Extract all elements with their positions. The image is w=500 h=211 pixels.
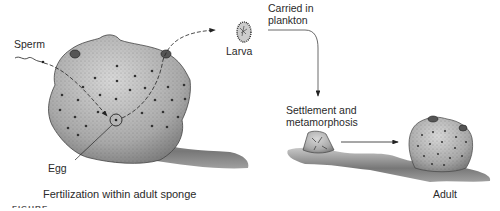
diagram-artwork: [0, 0, 500, 211]
label-adult: Adult: [433, 188, 457, 200]
plankton-arrow: [268, 30, 318, 96]
label-plankton: plankton: [268, 14, 308, 26]
label-settlement: Settlement and: [286, 104, 357, 116]
sperm-tail: [15, 57, 42, 62]
adult-sponge-small: [409, 116, 473, 172]
osculum-right: [161, 50, 171, 58]
label-larva: Larva: [226, 45, 252, 57]
juvenile-sponge: [303, 131, 334, 153]
adult-sponge-large: [49, 35, 191, 163]
figure-label-fragment: FIGURE: [12, 202, 48, 208]
sponge-life-cycle-diagram: Sperm Egg Larva Carried in plankton Sett…: [0, 0, 500, 211]
label-sperm: Sperm: [14, 38, 45, 50]
larva-icon: [237, 22, 251, 42]
osculum-left: [70, 50, 80, 58]
label-carried-in: Carried in: [268, 2, 314, 14]
caption-fertilization: Fertilization within adult sponge: [43, 188, 196, 200]
label-egg: Egg: [48, 162, 67, 174]
label-metamorphosis: metamorphosis: [286, 116, 358, 128]
